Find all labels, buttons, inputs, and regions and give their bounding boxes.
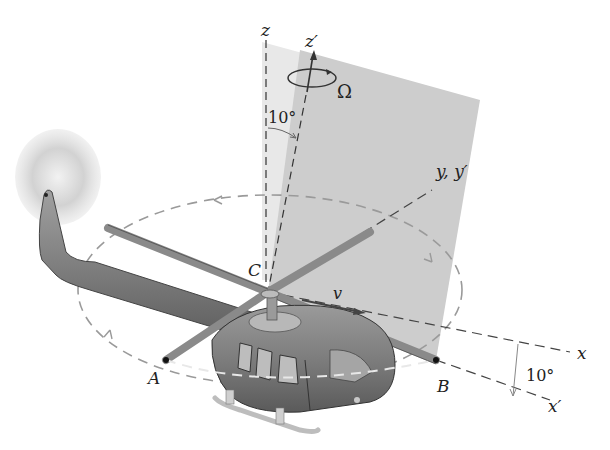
rotor-hub — [261, 290, 279, 298]
label-angle-right: 10° — [526, 366, 554, 385]
label-B: B — [436, 376, 450, 396]
label-omega: Ω — [337, 81, 352, 102]
path-arrow-left — [104, 330, 112, 339]
label-x-prime: x′ — [548, 396, 562, 416]
skid-strut-1 — [226, 390, 234, 404]
tail-rotor-disc — [15, 129, 101, 225]
point-A — [163, 357, 169, 363]
tail-rotor-hub — [44, 193, 48, 197]
label-v: v — [333, 284, 342, 303]
label-C: C — [248, 260, 261, 280]
label-angle-top: 10° — [268, 108, 296, 127]
nose-light — [354, 397, 360, 403]
window-2 — [256, 348, 272, 380]
window-3 — [278, 355, 298, 384]
helicopter-diagram: z z′ Ω 10° y, y′ C v A B x x′ 10° — [0, 0, 610, 450]
label-z-prime: z′ — [304, 31, 318, 51]
label-z: z — [260, 20, 271, 40]
rotor-mast — [267, 296, 277, 320]
point-B — [433, 357, 439, 363]
window-1 — [238, 343, 252, 372]
skid-strut-2 — [276, 408, 284, 424]
label-y-yprime: y, y′ — [435, 161, 468, 181]
path-arrow-top — [214, 196, 222, 204]
label-A: A — [146, 368, 160, 388]
label-x: x — [577, 343, 587, 363]
